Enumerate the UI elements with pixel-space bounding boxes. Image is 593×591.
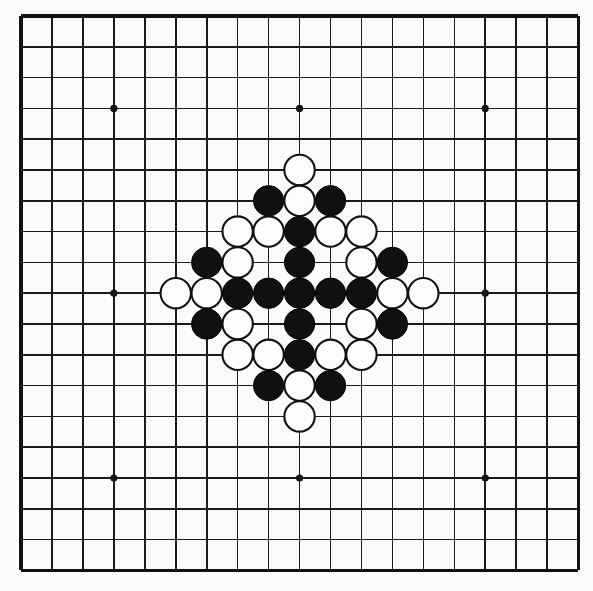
white-stone[interactable] — [284, 401, 314, 431]
white-stone[interactable] — [346, 340, 376, 370]
black-stone[interactable] — [315, 278, 345, 308]
white-stone[interactable] — [284, 155, 314, 185]
black-stone[interactable] — [192, 309, 222, 339]
star-point — [482, 290, 489, 297]
black-stone[interactable] — [192, 247, 222, 277]
go-board-canvas[interactable] — [0, 0, 593, 591]
star-point — [296, 474, 303, 481]
white-stone[interactable] — [346, 216, 376, 246]
black-stone[interactable] — [253, 370, 283, 400]
white-stone[interactable] — [192, 278, 222, 308]
star-point — [110, 290, 117, 297]
black-stone[interactable] — [284, 340, 314, 370]
black-stone[interactable] — [222, 278, 252, 308]
white-stone[interactable] — [253, 216, 283, 246]
black-stone[interactable] — [253, 278, 283, 308]
white-stone[interactable] — [284, 186, 314, 216]
black-stone[interactable] — [315, 370, 345, 400]
white-stone[interactable] — [315, 216, 345, 246]
white-stone[interactable] — [346, 247, 376, 277]
black-stone[interactable] — [284, 309, 314, 339]
white-stone[interactable] — [253, 340, 283, 370]
black-stone[interactable] — [377, 247, 407, 277]
white-stone[interactable] — [315, 340, 345, 370]
star-point — [110, 105, 117, 112]
black-stone[interactable] — [284, 247, 314, 277]
go-board-figure — [0, 0, 593, 591]
black-stone[interactable] — [253, 186, 283, 216]
white-stone[interactable] — [161, 278, 191, 308]
white-stone[interactable] — [284, 370, 314, 400]
black-stone[interactable] — [284, 278, 314, 308]
white-stone[interactable] — [346, 309, 376, 339]
star-point — [296, 105, 303, 112]
star-point — [482, 474, 489, 481]
white-stone[interactable] — [377, 278, 407, 308]
black-stone[interactable] — [284, 216, 314, 246]
black-stone[interactable] — [377, 309, 407, 339]
stones-layer[interactable] — [161, 155, 439, 432]
white-stone[interactable] — [222, 340, 252, 370]
star-point — [110, 474, 117, 481]
black-stone[interactable] — [346, 278, 376, 308]
white-stone[interactable] — [222, 247, 252, 277]
black-stone[interactable] — [315, 186, 345, 216]
white-stone[interactable] — [222, 309, 252, 339]
white-stone[interactable] — [408, 278, 438, 308]
white-stone[interactable] — [222, 216, 252, 246]
star-point — [482, 105, 489, 112]
